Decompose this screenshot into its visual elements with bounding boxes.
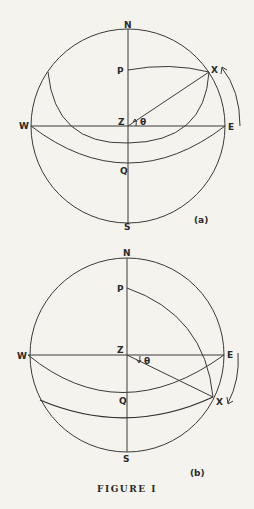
panel-tag-b: (b): [190, 468, 205, 478]
label-theta-a: θ: [140, 117, 146, 127]
label-theta-b: θ: [144, 356, 150, 366]
label-s-b: S: [123, 454, 129, 464]
equator-arc-b: [28, 355, 224, 393]
label-x-a: X: [211, 65, 218, 75]
label-e-a: E: [228, 122, 234, 132]
label-e-b: E: [227, 350, 233, 360]
label-n-a: N: [124, 20, 132, 30]
rotation-arrow-b: [228, 353, 238, 403]
figure-caption: FIGURE I: [97, 484, 157, 494]
label-z-a: Z: [118, 117, 125, 127]
label-q-a: Q: [120, 166, 128, 176]
hour-arc-px-a: [128, 66, 209, 72]
panel-a: N P X Z θ W E Q S (a): [19, 20, 240, 232]
label-z-b: Z: [117, 345, 124, 355]
hour-arc-px-b: [127, 288, 213, 397]
celestial-sphere-figure: N P X Z θ W E Q S (a) N P Z θ W E Q: [0, 0, 254, 509]
label-s-a: S: [124, 222, 130, 232]
label-w-b: W: [17, 351, 27, 361]
label-p-b: P: [117, 284, 124, 294]
panel-tag-a: (a): [194, 215, 208, 225]
label-p-a: P: [117, 66, 124, 76]
label-n-b: N: [123, 248, 131, 258]
label-w-a: W: [19, 121, 29, 131]
label-x-b: X: [216, 397, 223, 407]
label-q-b: Q: [119, 396, 127, 406]
panel-b: N P Z θ W E Q X S (b): [17, 248, 238, 478]
